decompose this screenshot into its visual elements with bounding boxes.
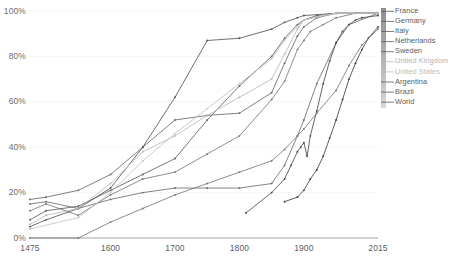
data-point: [206, 114, 208, 116]
series-united-states: [29, 12, 379, 230]
legend-item-argentina[interactable]: Argentina: [395, 77, 457, 87]
data-point: [77, 214, 79, 216]
data-point: [296, 196, 298, 198]
data-point: [271, 192, 273, 194]
data-point: [271, 183, 273, 185]
data-point: [290, 164, 292, 166]
data-point: [348, 78, 350, 80]
data-point: [29, 228, 31, 230]
x-tick-1800: 1800: [209, 243, 269, 253]
series-sweden: [29, 12, 379, 227]
data-point: [303, 26, 305, 28]
data-point: [335, 42, 337, 44]
data-point: [142, 192, 144, 194]
legend-item-netherlands[interactable]: Netherlands: [395, 36, 457, 46]
data-point: [284, 201, 286, 203]
data-point: [306, 155, 308, 157]
data-point: [206, 153, 208, 155]
data-point: [284, 80, 286, 82]
data-point: [354, 19, 356, 21]
data-point: [322, 15, 324, 17]
data-point: [45, 201, 47, 203]
data-point: [309, 30, 311, 32]
data-point: [377, 26, 379, 28]
data-point: [322, 83, 324, 85]
plot-area: [0, 0, 457, 263]
data-point: [45, 203, 47, 205]
data-point: [29, 223, 31, 225]
legend-item-france[interactable]: France: [395, 6, 457, 16]
data-point: [348, 24, 350, 26]
legend-color-band: [381, 8, 386, 108]
data-point: [206, 40, 208, 42]
data-point: [296, 49, 298, 51]
y-tick-label: 40%: [0, 143, 26, 152]
data-point: [142, 151, 144, 153]
legend-item-united-states[interactable]: United States: [395, 67, 457, 77]
x-tick-1475: 1475: [0, 243, 60, 253]
data-point: [77, 217, 79, 219]
data-point: [206, 108, 208, 110]
data-point: [284, 62, 286, 64]
data-point: [296, 17, 298, 19]
legend-item-germany[interactable]: Germany: [395, 16, 457, 26]
data-point: [45, 210, 47, 212]
data-point: [174, 187, 176, 189]
y-tick-label: 80%: [0, 52, 26, 61]
data-point: [303, 119, 305, 121]
data-point: [303, 189, 305, 191]
data-point: [77, 208, 79, 210]
legend-item-sweden[interactable]: Sweden: [395, 46, 457, 56]
data-point: [271, 78, 273, 80]
data-point: [110, 173, 112, 175]
y-tick-20: 20%: [0, 188, 26, 197]
x-tick-2015: 2015: [348, 243, 408, 253]
data-point: [206, 187, 208, 189]
data-point: [335, 119, 337, 121]
y-tick-60: 60%: [0, 97, 26, 106]
data-point: [309, 135, 311, 137]
legend-item-italy[interactable]: Italy: [395, 26, 457, 36]
data-point: [110, 183, 112, 185]
data-point: [296, 24, 298, 26]
literacy-rate-line-chart: 0%20%40%60%80%100% 147516001700180019002…: [0, 0, 457, 263]
data-point: [335, 90, 337, 92]
data-point: [316, 83, 318, 85]
gridlines: [30, 11, 378, 193]
data-point: [329, 137, 331, 139]
y-tick-label: 20%: [0, 188, 26, 197]
data-point: [316, 112, 318, 114]
data-point: [45, 219, 47, 221]
data-point: [238, 112, 240, 114]
data-point: [303, 40, 305, 42]
data-point: [342, 99, 344, 101]
data-point: [29, 237, 31, 239]
data-point: [110, 189, 112, 191]
data-point: [238, 135, 240, 137]
y-tick-80: 80%: [0, 52, 26, 61]
legend-item-united-kingdom[interactable]: United Kingdom: [395, 56, 457, 66]
legend-item-brazil[interactable]: Brazil: [395, 87, 457, 97]
x-tick-1900: 1900: [274, 243, 334, 253]
y-tick-label: 60%: [0, 97, 26, 106]
data-point: [238, 187, 240, 189]
data-point: [29, 219, 31, 221]
series-line: [246, 16, 378, 213]
data-point: [354, 62, 356, 64]
data-point: [238, 96, 240, 98]
data-point: [284, 53, 286, 55]
y-tick-100: 100%: [0, 7, 26, 16]
y-tick-40: 40%: [0, 143, 26, 152]
data-point: [29, 226, 31, 228]
data-point: [174, 194, 176, 196]
data-point: [284, 164, 286, 166]
data-point: [284, 37, 286, 39]
data-point: [174, 135, 176, 137]
data-point: [296, 26, 298, 28]
data-point: [271, 58, 273, 60]
data-point: [284, 178, 286, 180]
series-line: [30, 29, 378, 238]
legend-item-world[interactable]: World: [395, 97, 457, 107]
data-point: [271, 28, 273, 30]
data-point: [361, 17, 363, 19]
